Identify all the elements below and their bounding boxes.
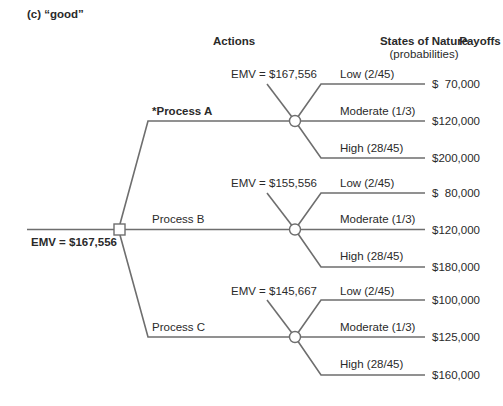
chance-group-process-a: EMV = $167,556 Low (2/45) Moderate (1/3)… [231, 68, 480, 164]
emv-pointer-a [267, 84, 295, 121]
payoff-c-low: $100,000 [432, 294, 480, 306]
header-actions: Actions [213, 35, 255, 47]
header-payoffs: Payoffs [459, 35, 501, 47]
header-states-of-nature: States of Nature [380, 35, 468, 47]
emv-pointer-b [267, 193, 295, 230]
payoff-a-moderate: $120,000 [432, 115, 480, 127]
payoff-c-moderate: $125,000 [432, 331, 480, 343]
payoff-b-low: $ 80,000 [432, 187, 480, 199]
payoff-b-moderate: $120,000 [432, 224, 480, 236]
figure-caption: (c) “good” [27, 8, 84, 20]
payoff-a-high: $200,000 [432, 152, 480, 164]
payoff-c-high: $160,000 [432, 369, 480, 381]
state-b-high: High (28/45) [340, 250, 403, 262]
payoff-a-low: $ 70,000 [432, 78, 480, 90]
state-a-low: Low (2/45) [340, 68, 395, 80]
emv-label-a: EMV = $167,556 [231, 68, 317, 80]
emv-pointer-c [267, 300, 295, 337]
chance-node-b [290, 224, 301, 235]
header-probabilities: (probabilities) [389, 48, 458, 60]
state-a-high: High (28/45) [340, 142, 403, 154]
decision-tree-diagram: (c) “good” Actions States of Nature (pro… [0, 0, 503, 406]
action-label-process-a: *Process A [152, 105, 212, 117]
chance-group-process-b: EMV = $155,556 Low (2/45) Moderate (1/3)… [231, 177, 480, 273]
chance-group-process-c: EMV = $145,667 Low (2/45) Moderate (1/3)… [231, 285, 480, 381]
state-b-moderate: Moderate (1/3) [340, 213, 416, 225]
chance-node-a [290, 116, 301, 127]
chance-node-c [290, 332, 301, 343]
branch-process-a [120, 121, 295, 224]
state-b-low: Low (2/45) [340, 177, 395, 189]
action-label-process-b: Process B [152, 213, 205, 225]
emv-label-b: EMV = $155,556 [231, 177, 317, 189]
emv-label-c: EMV = $145,667 [231, 285, 317, 297]
action-label-process-c: Process C [152, 321, 205, 333]
root-emv-label: EMV = $167,556 [31, 236, 117, 248]
state-a-moderate: Moderate (1/3) [340, 105, 416, 117]
state-c-low: Low (2/45) [340, 285, 395, 297]
state-c-moderate: Moderate (1/3) [340, 321, 416, 333]
decision-node-square [114, 224, 125, 235]
payoff-b-high: $180,000 [432, 261, 480, 273]
state-c-high: High (28/45) [340, 358, 403, 370]
